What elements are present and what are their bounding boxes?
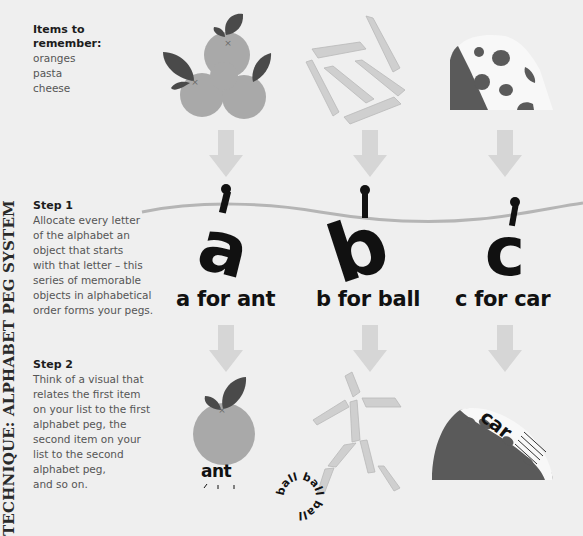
svg-text:×: × [224,38,232,48]
oranges-icon: × × [163,14,271,119]
svg-text:×: × [191,77,199,87]
ant-word: ant [201,461,231,481]
caption-b: b for ball [316,287,420,311]
cheese-icon [450,35,553,110]
svg-text:a: a [190,202,257,295]
caption-c: c for car [455,287,550,311]
arrow-down-icon [209,130,522,177]
pasta-figure-icon [313,372,401,494]
caption-a: a for ant [176,287,275,311]
peg-letter-c: c [485,197,525,291]
pasta-icon [306,16,405,124]
peg-letter-b: b [316,185,399,302]
orange-ant-icon: × [193,377,255,465]
peg-letter-a: a [190,184,257,295]
arrow-down-icon [209,325,522,372]
svg-text:c: c [485,212,525,291]
svg-text:×: × [218,405,226,415]
